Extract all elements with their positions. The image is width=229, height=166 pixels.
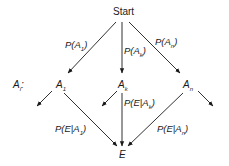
node-a1: A1 xyxy=(56,80,66,92)
edge-label-start-a1: P(A1) xyxy=(65,40,87,52)
edge-label-ak-e: P(E|Ak) xyxy=(124,98,155,110)
p-close: ) xyxy=(143,45,146,56)
edge-a1-branch xyxy=(37,91,52,106)
p-text: P(A xyxy=(65,39,81,50)
level-main: A xyxy=(13,79,20,90)
ak-sub: k xyxy=(125,86,128,92)
p-close: ) xyxy=(185,123,188,134)
a1-main: A xyxy=(56,79,63,90)
edge-label-start-ak: P(Ak) xyxy=(124,46,146,58)
an-sub: n xyxy=(190,86,193,92)
p-text: P(A xyxy=(124,45,140,56)
node-start: Start xyxy=(113,7,134,17)
ak-main: A xyxy=(118,79,125,90)
level-colon: : xyxy=(21,79,24,90)
edge-label-a1-e: P(E|A1) xyxy=(55,124,86,136)
event-label: E xyxy=(119,149,126,160)
p-close: ) xyxy=(174,36,177,47)
a1-sub: 1 xyxy=(63,86,66,92)
edge-ak-branch xyxy=(102,91,117,106)
start-label: Start xyxy=(113,6,134,17)
p-close: ) xyxy=(152,97,155,108)
node-event: E xyxy=(119,150,126,160)
p-text: P(E|A xyxy=(55,123,80,134)
p-text: P(A xyxy=(155,36,171,47)
level-label: Ai: xyxy=(13,80,24,92)
p-text: P(E|A xyxy=(157,123,182,134)
edge-an-branch xyxy=(198,91,213,106)
an-main: A xyxy=(183,79,190,90)
node-an: An xyxy=(183,80,193,92)
tree-edges xyxy=(0,0,229,166)
edge-label-an-e: P(E|An) xyxy=(157,124,188,136)
p-close: ) xyxy=(83,123,86,134)
node-ak: Ak xyxy=(118,80,128,92)
edge-label-start-an: P(An) xyxy=(155,37,177,49)
p-text: P(E|A xyxy=(124,97,149,108)
p-close: ) xyxy=(84,39,87,50)
edge-a1-e xyxy=(64,93,117,146)
